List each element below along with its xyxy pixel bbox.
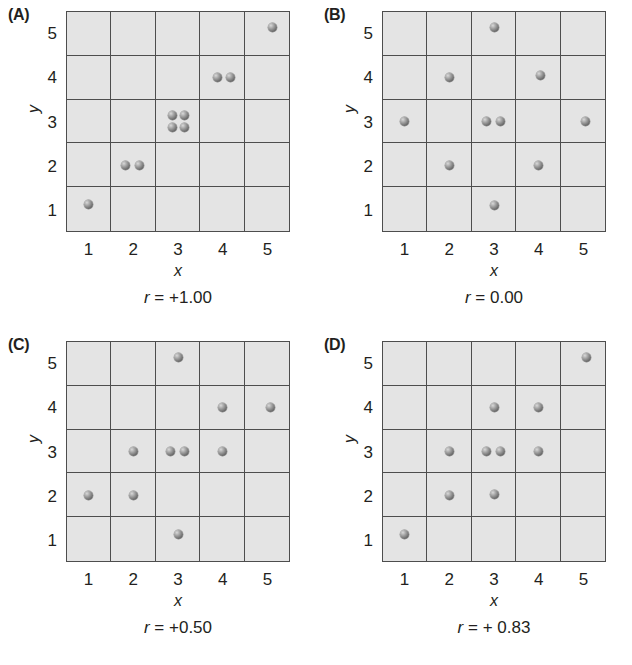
grid-cell xyxy=(516,12,560,56)
panel-c-y-axis-label: y xyxy=(25,435,43,443)
panel-b-caption: r = 0.00 xyxy=(382,288,606,308)
grid-cell xyxy=(67,430,111,474)
x-tick-label: 3 xyxy=(173,571,182,588)
x-tick-label: 3 xyxy=(489,571,498,588)
grid-cell xyxy=(111,56,155,100)
grid-cell xyxy=(516,342,560,386)
grid-cell xyxy=(472,100,516,144)
x-tick-label: 4 xyxy=(218,571,227,588)
grid-cell xyxy=(383,342,427,386)
grid-cell xyxy=(111,100,155,144)
x-tick-label: 1 xyxy=(84,571,93,588)
grid-cell xyxy=(472,473,516,517)
grid-cell xyxy=(67,386,111,430)
grid-cell xyxy=(516,143,560,187)
grid-cell xyxy=(200,56,244,100)
grid-cell xyxy=(472,386,516,430)
panel-d-y-axis-label: y xyxy=(341,435,359,443)
grid-cell xyxy=(111,187,155,231)
grid-cell xyxy=(156,187,200,231)
grid-cell xyxy=(561,100,605,144)
y-tick-label: 5 xyxy=(364,355,373,372)
y-tick-label: 4 xyxy=(364,399,373,416)
panel-a-plot-area: 1234512345 xyxy=(66,11,290,232)
grid-cell xyxy=(200,517,244,561)
grid-cell xyxy=(561,517,605,561)
grid-cell xyxy=(427,430,471,474)
grid-cell xyxy=(427,342,471,386)
panel-c: (C) y 1234512345 x r = +0.50 xyxy=(0,330,316,662)
panel-b-caption-value: = 0.00 xyxy=(471,288,523,307)
grid-cell xyxy=(111,430,155,474)
grid-cell xyxy=(383,56,427,100)
panel-b-x-axis-label: x xyxy=(382,262,606,280)
grid-cell xyxy=(516,386,560,430)
y-tick-label: 2 xyxy=(364,487,373,504)
grid-cell xyxy=(156,56,200,100)
x-tick-label: 3 xyxy=(173,241,182,258)
grid-cell xyxy=(561,12,605,56)
panel-a-caption-value: = +1.00 xyxy=(150,288,212,307)
grid-cell xyxy=(156,473,200,517)
grid-cell xyxy=(200,342,244,386)
grid-cell xyxy=(156,430,200,474)
panel-b-grid xyxy=(382,11,606,232)
y-tick-label: 1 xyxy=(364,531,373,548)
grid-cell xyxy=(245,12,289,56)
grid-cell xyxy=(427,187,471,231)
x-tick-label: 4 xyxy=(534,571,543,588)
grid-cell xyxy=(383,473,427,517)
y-tick-label: 1 xyxy=(364,201,373,218)
panel-d-caption-value: = + 0.83 xyxy=(463,618,530,637)
y-tick-label: 1 xyxy=(48,531,57,548)
grid-cell xyxy=(67,12,111,56)
panel-c-x-axis-label: x xyxy=(66,592,290,610)
grid-cell xyxy=(472,517,516,561)
panel-c-caption: r = +0.50 xyxy=(66,618,290,638)
grid-cell xyxy=(111,342,155,386)
x-tick-label: 4 xyxy=(534,241,543,258)
grid-cell xyxy=(472,187,516,231)
panel-d-caption: r = + 0.83 xyxy=(382,618,606,638)
x-tick-label: 5 xyxy=(263,241,272,258)
grid-cell xyxy=(67,100,111,144)
grid-cell xyxy=(67,56,111,100)
x-tick-label: 5 xyxy=(579,241,588,258)
y-tick-label: 4 xyxy=(364,69,373,86)
y-tick-label: 4 xyxy=(48,399,57,416)
panel-b-y-axis-label: y xyxy=(341,105,359,113)
panel-c-plot-area: 1234512345 xyxy=(66,341,290,562)
grid-cell xyxy=(427,386,471,430)
grid-cell xyxy=(427,143,471,187)
x-tick-label: 2 xyxy=(128,571,137,588)
panel-c-label: (C) xyxy=(8,336,29,354)
y-tick-label: 5 xyxy=(48,25,57,42)
y-tick-label: 2 xyxy=(48,157,57,174)
grid-cell xyxy=(383,12,427,56)
panel-a-label: (A) xyxy=(8,6,29,24)
grid-cell xyxy=(156,517,200,561)
grid-cell xyxy=(245,100,289,144)
grid-cell xyxy=(156,143,200,187)
x-tick-label: 1 xyxy=(400,241,409,258)
grid-cell xyxy=(245,56,289,100)
y-tick-label: 5 xyxy=(364,25,373,42)
grid-cell xyxy=(67,187,111,231)
grid-cell xyxy=(472,12,516,56)
x-tick-label: 2 xyxy=(128,241,137,258)
grid-cell xyxy=(561,386,605,430)
y-tick-label: 5 xyxy=(48,355,57,372)
grid-cell xyxy=(245,187,289,231)
x-tick-label: 1 xyxy=(400,571,409,588)
grid-cell xyxy=(561,56,605,100)
grid-cell xyxy=(516,100,560,144)
grid-cell xyxy=(111,517,155,561)
grid-cell xyxy=(561,430,605,474)
grid-cell xyxy=(245,342,289,386)
panel-c-caption-value: = +0.50 xyxy=(150,618,212,637)
grid-cell xyxy=(200,187,244,231)
grid-cell xyxy=(516,430,560,474)
panel-d-plot-area: 1234512345 xyxy=(382,341,606,562)
y-tick-label: 2 xyxy=(364,157,373,174)
grid-cell xyxy=(561,187,605,231)
